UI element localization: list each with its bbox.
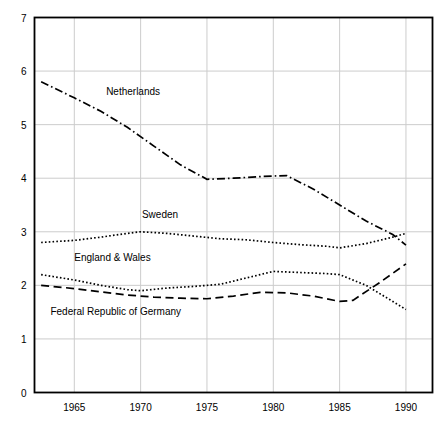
plot-background [35,18,433,393]
y-axis-tick-label-6: 6 [21,66,27,77]
x-axis-tick-label-1985: 1985 [329,402,352,413]
y-axis-tick-label-0: 0 [21,388,27,399]
series-label-netherlands: Netherlands [106,86,160,97]
chart-canvas: 01234567196519701975198019851990Netherla… [0,0,446,428]
x-axis-tick-label-1980: 1980 [262,402,285,413]
y-axis-tick-label-5: 5 [21,120,27,131]
x-axis-tick-label-1970: 1970 [130,402,153,413]
x-axis-tick-label-1975: 1975 [196,402,219,413]
y-axis-tick-label-4: 4 [21,173,27,184]
x-axis-tick-label-1965: 1965 [63,402,86,413]
y-axis-tick-label-2: 2 [21,280,27,291]
series-label-federal-republic-of-germany: Federal Republic of Germany [50,306,181,317]
series-label-sweden: Sweden [142,209,178,220]
line-chart: 01234567196519701975198019851990Netherla… [0,0,446,428]
y-axis-tick-label-1: 1 [21,334,27,345]
y-axis-tick-label-3: 3 [21,227,27,238]
series-label-england-wales: England & Wales [74,252,150,263]
y-axis-tick-label-7: 7 [21,13,27,24]
x-axis-tick-label-1990: 1990 [395,402,418,413]
